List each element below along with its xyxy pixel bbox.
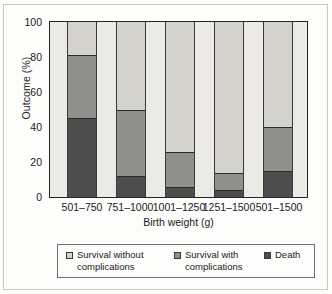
segment-survival-with-complications — [264, 127, 292, 171]
y-tick-label-0: 0 — [16, 192, 42, 203]
segment-survival-without-complications — [215, 22, 243, 173]
plot-area — [49, 21, 308, 198]
legend: Survival without complications Survival … — [57, 244, 315, 278]
x-axis-label: Birth weight (g) — [49, 216, 308, 228]
y-tick-label-20: 20 — [16, 157, 42, 168]
legend-entry-survival-without-complications: Survival without complications — [66, 249, 158, 272]
segment-death — [264, 171, 292, 197]
bar-501-1500 — [263, 22, 293, 197]
legend-swatch-survival-without-complications — [66, 252, 73, 259]
y-axis-ticks: 100 80 60 40 20 0 — [16, 0, 42, 294]
segment-death — [166, 187, 194, 198]
segment-survival-without-complications — [68, 22, 96, 55]
segment-survival-with-complications — [215, 173, 243, 191]
legend-entry-survival-with-complications: Survival with complications — [174, 249, 254, 272]
segment-survival-with-complications — [166, 152, 194, 187]
legend-label-death: Death — [275, 249, 312, 261]
bar-1001-1250 — [165, 22, 195, 197]
legend-label-survival-without-complications: Survival without complications — [77, 249, 158, 272]
x-tick-label-501-1500: 501–1500 — [236, 201, 322, 213]
legend-swatch-death — [264, 252, 271, 259]
y-tick-label-100: 100 — [16, 17, 42, 28]
segment-survival-with-complications — [117, 110, 145, 177]
figure: Outcome (%) 100 80 60 40 20 0 — [0, 0, 332, 294]
segment-survival-without-complications — [166, 22, 194, 152]
segment-survival-with-complications — [68, 55, 96, 118]
segment-survival-without-complications — [264, 22, 292, 127]
legend-swatch-survival-with-complications — [174, 252, 181, 259]
bar-501-750 — [67, 22, 97, 197]
segment-death — [68, 118, 96, 197]
legend-label-survival-with-complications: Survival with complications — [185, 249, 254, 272]
legend-entry-death: Death — [264, 249, 312, 261]
bar-1251-1500 — [214, 22, 244, 197]
segment-survival-without-complications — [117, 22, 145, 110]
segment-death — [117, 176, 145, 197]
segment-death — [215, 190, 243, 197]
y-tick-label-80: 80 — [16, 52, 42, 63]
y-tick-label-40: 40 — [16, 122, 42, 133]
y-tick-label-60: 60 — [16, 87, 42, 98]
bar-751-1000 — [116, 22, 146, 197]
